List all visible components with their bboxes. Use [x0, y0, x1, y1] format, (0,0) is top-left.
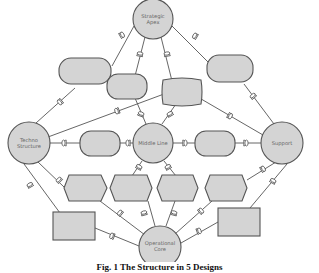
rect-bottom-left [53, 212, 95, 240]
svg-text:Support: Support [272, 140, 293, 147]
organization-structure-diagram: Strategic Apex Techno Structure Middle L… [0, 0, 319, 262]
wavy-box-mid-right [162, 78, 202, 106]
svg-text:Middle Line: Middle Line [138, 140, 168, 146]
svg-text:Apex: Apex [146, 19, 159, 26]
svg-text:Core: Core [154, 246, 166, 252]
rounded-box-mid-left [107, 74, 147, 99]
rounded-box-top-right [207, 55, 253, 82]
rounded-box-right [195, 131, 235, 156]
node-support: Support [261, 122, 303, 164]
rounded-box-left [80, 131, 120, 156]
node-strategic-apex: Strategic Apex [133, 0, 173, 39]
rect-bottom-right [218, 208, 260, 236]
hexagon-4 [205, 175, 247, 201]
svg-text:Structure: Structure [17, 143, 41, 149]
hexagon-1 [64, 175, 107, 201]
node-operational-core: Operational Core [139, 226, 181, 262]
hexagon-2 [110, 175, 152, 201]
node-techno-structure: Techno Structure [8, 122, 50, 164]
rounded-box-top-left [59, 58, 111, 84]
hexagon-3 [157, 175, 198, 201]
figure-caption: Fig. 1 The Structure in 5 Designs [0, 262, 319, 272]
node-middle-line: Middle Line [133, 123, 173, 163]
